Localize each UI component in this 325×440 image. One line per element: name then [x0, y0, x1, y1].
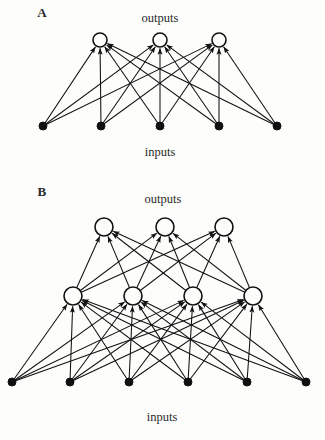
edge-b-in-3-to-b-hid-3	[129, 304, 187, 382]
edge-b-in-2-to-b-hid-3	[70, 302, 185, 382]
panel-a-letter: A	[37, 5, 47, 20]
edge-b-in-1-to-b-hid-4	[12, 299, 243, 382]
panel-b-outputs-label: outputs	[145, 192, 182, 206]
node-b-hid-3	[184, 287, 202, 305]
node-a-in-3	[156, 122, 164, 130]
edge-b-in-5-to-b-hid-4	[247, 306, 252, 382]
edge-b-in-1-to-b-hid-2	[12, 302, 125, 382]
edge-b-in-1-to-b-hid-1	[12, 304, 67, 382]
edge-a-in-1-to-a-out-3	[43, 44, 212, 126]
node-a-out-1	[93, 33, 107, 47]
edge-a-in-2-to-a-out-1	[100, 48, 101, 126]
node-a-in-5	[273, 122, 281, 130]
node-b-in-6	[302, 378, 310, 386]
edge-b-in-6-to-b-hid-3	[201, 302, 306, 382]
node-b-hid-1	[64, 287, 82, 305]
edge-a-in-3-to-a-out-3	[160, 47, 214, 126]
node-b-hid-4	[244, 287, 262, 305]
panel-a-inputs-label: inputs	[145, 145, 176, 159]
edge-a-in-4-to-a-out-1	[107, 45, 219, 126]
panel-b-letter: B	[38, 184, 47, 199]
edge-a-in-1-to-a-out-1	[43, 47, 95, 126]
node-b-out-2	[156, 218, 174, 236]
node-a-out-2	[153, 33, 167, 47]
node-a-out-3	[212, 33, 226, 47]
edge-b-hid-1-to-b-out-1	[73, 236, 100, 296]
connection-edges	[12, 44, 306, 382]
edge-b-in-6-to-b-hid-1	[83, 300, 306, 382]
node-b-hid-2	[124, 287, 142, 305]
edge-b-hid-3-to-b-out-1	[112, 233, 193, 296]
edge-b-in-3-to-b-hid-4	[129, 302, 245, 382]
node-b-in-1	[8, 378, 16, 386]
node-a-in-2	[97, 122, 105, 130]
edge-a-in-1-to-a-out-2	[43, 45, 153, 126]
network-nodes	[8, 33, 310, 386]
panel-a-outputs-label: outputs	[142, 11, 179, 25]
node-b-in-2	[66, 378, 74, 386]
edge-b-hid-2-to-b-out-3	[133, 233, 216, 296]
neural-network-figure: A outputs inputs B outputs inputs	[0, 0, 325, 440]
node-b-out-1	[95, 218, 113, 236]
edge-b-in-2-to-b-hid-1	[70, 306, 73, 382]
edge-b-hid-1-to-b-out-2	[73, 233, 157, 296]
node-a-in-1	[39, 122, 47, 130]
node-b-in-5	[243, 378, 251, 386]
edge-a-in-5-to-a-out-3	[224, 47, 277, 126]
edge-b-in-5-to-b-hid-1	[82, 301, 247, 382]
edge-a-in-2-to-a-out-2	[101, 47, 155, 126]
network-diagram-canvas: A outputs inputs B outputs inputs	[0, 0, 325, 440]
edge-a-in-2-to-a-out-3	[101, 45, 212, 126]
node-b-in-3	[125, 378, 133, 386]
edge-b-in-2-to-b-hid-2	[70, 304, 127, 382]
node-b-in-4	[184, 378, 192, 386]
edge-b-in-4-to-b-hid-3	[188, 306, 192, 382]
edge-b-hid-3-to-b-out-3	[193, 236, 220, 296]
edge-b-in-5-to-b-hid-2	[141, 302, 247, 382]
edge-a-in-4-to-a-out-2	[165, 47, 219, 126]
edge-a-in-3-to-a-out-1	[105, 47, 160, 126]
panel-b-inputs-label: inputs	[147, 410, 178, 424]
edge-a-in-5-to-a-out-1	[107, 44, 277, 126]
edge-a-in-5-to-a-out-2	[167, 45, 277, 126]
node-b-out-3	[215, 218, 233, 236]
node-a-in-4	[215, 122, 223, 130]
